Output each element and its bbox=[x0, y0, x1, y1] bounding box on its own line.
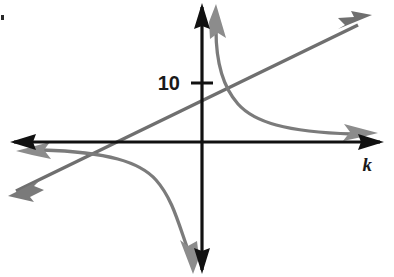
vertical-axis bbox=[194, 3, 210, 274]
line-arrowhead-lower-left bbox=[8, 180, 44, 202]
straight-line-graph bbox=[8, 11, 372, 202]
vertical-axis-arrowhead-up bbox=[194, 3, 210, 29]
hyperbola-curve-upper-right bbox=[216, 30, 352, 134]
straight-line-segment bbox=[16, 25, 358, 191]
edge-speck bbox=[1, 15, 4, 20]
hyperbola-branch-quadrant-3 bbox=[16, 142, 199, 274]
graph-figure: 10 k bbox=[0, 0, 394, 277]
hyperbola-branch-quadrant-1 bbox=[209, 4, 378, 141]
horizontal-axis-arrowhead-left bbox=[10, 134, 36, 150]
y-tick-label-10: 10 bbox=[158, 72, 180, 94]
hyperbola-arrowhead-down bbox=[180, 240, 199, 274]
horizontal-axis-arrowhead-right bbox=[358, 134, 384, 150]
hyperbola-curve-lower-left bbox=[42, 150, 188, 250]
horizontal-axis bbox=[10, 134, 384, 150]
coordinate-plane-svg: 10 k bbox=[0, 0, 394, 277]
k-axis-label: k bbox=[363, 154, 373, 175]
